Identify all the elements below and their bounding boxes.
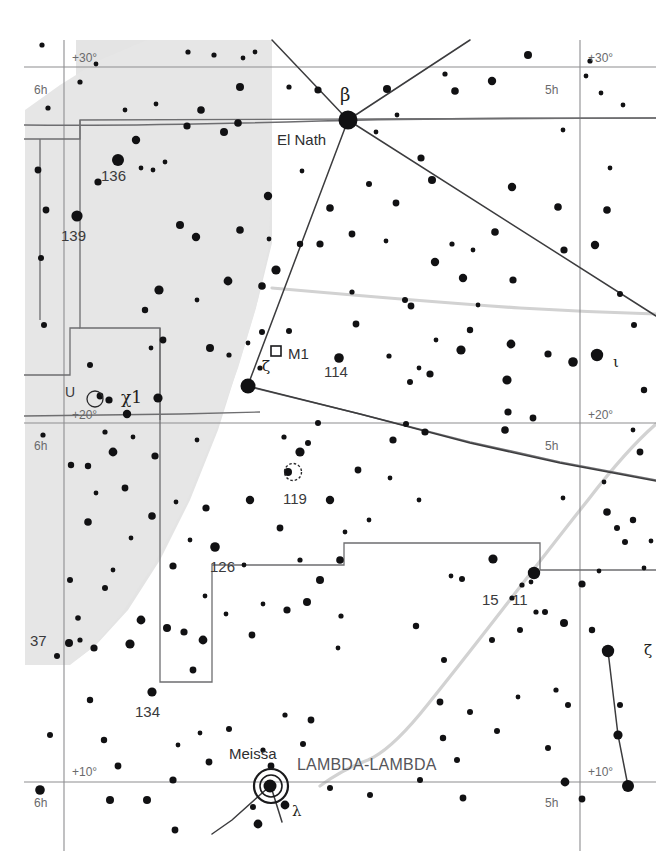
dec-label-mid-right: +20° <box>588 409 613 421</box>
milky-way-edge-upper <box>272 288 656 314</box>
sky-map-svg <box>0 0 656 851</box>
ra-label-bottom-left: 6h <box>34 797 47 809</box>
ra-label-bottom-right: 5h <box>545 797 558 809</box>
star-label-15: 15 <box>482 592 499 607</box>
star-label-chi1: χ1 <box>121 389 142 406</box>
variable-star-label-u: U <box>65 385 75 399</box>
star-zeta-tauri <box>241 379 256 394</box>
ra-label-top-left: 6h <box>34 84 47 96</box>
star-zeta-right <box>602 645 614 657</box>
star-name-meissa: Meissa <box>229 746 277 761</box>
m1-open-square-marker <box>271 346 281 356</box>
ra-label-mid-right: 5h <box>545 440 558 452</box>
asterism-label-lambda-lambda: LAMBDA-LAMBDA <box>297 757 437 773</box>
figure-line-beta-southeast <box>348 120 656 316</box>
figure-line-beta-northeast <box>348 40 470 120</box>
bayer-label-zeta-right: ζ <box>644 643 652 658</box>
deep-sky-label-m1: M1 <box>288 346 309 361</box>
bayer-label-zeta: ζ <box>262 359 270 374</box>
dec-label-bottom-left: +10° <box>72 766 97 778</box>
bayer-label-lambda: λ <box>292 804 302 819</box>
milky-way-shaded-region <box>24 40 272 851</box>
dec-label-top-left: +30° <box>72 52 97 64</box>
star-11-orionis <box>528 567 540 579</box>
dec-label-top-right: +30° <box>588 52 613 64</box>
star-name-el-nath: El Nath <box>277 132 326 147</box>
figure-line-zeta-east <box>248 386 656 481</box>
ra-label-mid-left: 6h <box>34 440 47 452</box>
dec-label-bottom-right: +10° <box>588 766 613 778</box>
constellation-figure-lines <box>212 40 656 834</box>
star-label-37: 37 <box>30 633 47 648</box>
ecliptic-lower-curve <box>246 386 656 480</box>
ra-label-top-right: 5h <box>545 84 558 96</box>
star-139-tauri <box>71 210 82 221</box>
star-beta-tauri <box>339 111 358 130</box>
star-label-136: 136 <box>101 168 126 183</box>
star-chart-canvas: +30° 6h +30° 5h +20° 6h +20° 5h +10° 6h … <box>0 0 656 851</box>
star-label-119: 119 <box>283 491 307 506</box>
bayer-label-iota: ι <box>613 355 619 370</box>
star-label-134: 134 <box>135 704 160 719</box>
star-lambda-orionis <box>264 780 277 793</box>
star-label-114: 114 <box>324 364 348 379</box>
figure-line-beta-north <box>272 40 348 120</box>
star-iota-aurigae <box>591 349 603 361</box>
star-label-126: 126 <box>210 559 235 574</box>
star-label-11: 11 <box>512 592 528 607</box>
star-136-tauri <box>112 154 124 166</box>
bayer-label-beta: β <box>340 86 350 104</box>
dec-label-mid-left: +20° <box>72 409 97 421</box>
star-label-139: 139 <box>61 228 86 243</box>
